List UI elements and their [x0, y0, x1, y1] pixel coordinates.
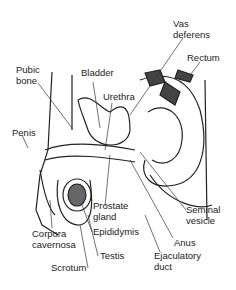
label-anus: Anus [174, 237, 196, 248]
label-vas-deferens: Vas deferens [173, 18, 210, 40]
label-line: deferens [173, 29, 210, 40]
label-line: Epididymis [93, 226, 139, 237]
label-pubic-bone: Pubic bone [16, 64, 40, 86]
label-line: Urethra [103, 91, 135, 102]
label-line: Bladder [81, 67, 114, 78]
label-line: bone [16, 75, 40, 86]
label-line: Testis [100, 250, 124, 261]
label-penis: Penis [12, 127, 36, 138]
label-line: cavernosa [32, 239, 76, 250]
label-prostate-gland: Prostate gland [93, 200, 128, 222]
label-rectum: Rectum [187, 52, 220, 63]
label-line: Corpora [32, 228, 76, 239]
label-line: vesicle [186, 215, 220, 226]
label-seminal-vesicle: Seminal vesicle [186, 204, 220, 226]
label-line: Seminal [186, 204, 220, 215]
label-line: Rectum [187, 52, 220, 63]
label-epididymis: Epididymis [93, 226, 139, 237]
label-line: Scrotum [51, 262, 86, 273]
label-bladder: Bladder [81, 67, 114, 78]
label-line: Anus [174, 237, 196, 248]
label-urethra: Urethra [103, 91, 135, 102]
label-corpora-cavernosa: Corpora cavernosa [32, 228, 76, 250]
anatomy-diagram: Vas deferens Rectum Pubic bone Bladder U… [0, 0, 236, 290]
label-line: duct [154, 261, 201, 272]
label-scrotum: Scrotum [51, 262, 86, 273]
label-line: Prostate [93, 200, 128, 211]
label-ejaculatory-duct: Ejaculatory duct [154, 250, 201, 272]
label-line: Vas [173, 18, 210, 29]
label-line: Ejaculatory [154, 250, 201, 261]
label-line: Pubic [16, 64, 40, 75]
label-testis: Testis [100, 250, 124, 261]
label-line: gland [93, 211, 128, 222]
label-line: Penis [12, 127, 36, 138]
